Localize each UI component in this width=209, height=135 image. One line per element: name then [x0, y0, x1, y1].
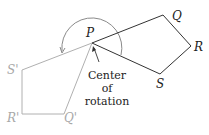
label-S-prime: S'	[7, 63, 19, 77]
arc-arrowhead-icon	[60, 47, 65, 53]
original-polygon	[92, 15, 191, 74]
image-polygon	[22, 43, 92, 114]
label-R-prime: R'	[6, 111, 19, 125]
caption-line-1: Center	[88, 69, 127, 82]
label-R: R	[193, 40, 203, 54]
label-Q-prime: Q'	[64, 111, 77, 125]
caption-line-2: of	[102, 82, 114, 95]
label-P: P	[85, 26, 95, 40]
label-Q: Q	[172, 9, 182, 23]
label-S: S	[156, 77, 164, 91]
rotation-diagram: P Q R S S' R' Q' Center of rotation	[0, 0, 209, 135]
caption-line-3: rotation	[85, 95, 130, 108]
